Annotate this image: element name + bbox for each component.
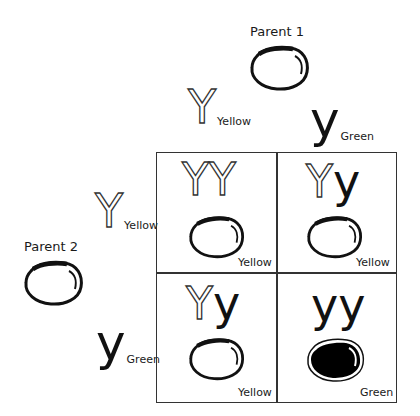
parent1-allele-dominant: Y Yellow: [188, 84, 251, 130]
parent1-pea-icon: [249, 44, 311, 96]
cell-phenotype: Yellow: [238, 256, 272, 269]
parent2-label: Parent 2: [24, 239, 78, 254]
allele-letter: Y: [95, 188, 123, 234]
cell-genotype-yy: yy: [311, 282, 365, 328]
genotype-letter: Y: [186, 282, 213, 326]
genotype-letter: y: [213, 280, 240, 326]
cell-genotype-Yy: Yy: [306, 158, 360, 204]
allele-name: Green: [341, 130, 374, 143]
genotype-letter: y: [333, 158, 360, 204]
yellow-pea-icon: [188, 336, 246, 386]
genotype-letter: Y: [306, 160, 333, 204]
parent1-label: Parent 1: [250, 24, 304, 39]
parent1-allele-recessive: y Green: [310, 95, 374, 145]
genotype-letter: Y: [209, 158, 236, 202]
allele-name: Green: [127, 353, 160, 366]
genotype-letter: y: [338, 282, 365, 328]
grid-divider-horizontal: [156, 272, 397, 274]
cell-phenotype: Yellow: [238, 386, 272, 399]
cell-phenotype: Green: [360, 386, 393, 399]
genotype-letter: y: [311, 282, 338, 328]
allele-letter: y: [310, 95, 340, 145]
allele-name: Yellow: [217, 115, 251, 128]
parent2-allele-dominant: Y Yellow: [95, 188, 158, 234]
genotype-letter: Y: [182, 158, 209, 202]
grid-divider-vertical: [276, 152, 278, 403]
cell-genotype-Yy: Yy: [186, 280, 240, 326]
allele-name: Yellow: [124, 219, 158, 232]
parent2-allele-recessive: y Green: [96, 318, 160, 368]
green-pea-icon: [305, 335, 367, 389]
allele-letter: y: [96, 318, 126, 368]
cell-phenotype: Yellow: [356, 256, 390, 269]
cell-genotype-YY: YY: [182, 158, 236, 202]
parent2-pea-icon: [23, 259, 85, 311]
allele-letter: Y: [188, 84, 216, 130]
